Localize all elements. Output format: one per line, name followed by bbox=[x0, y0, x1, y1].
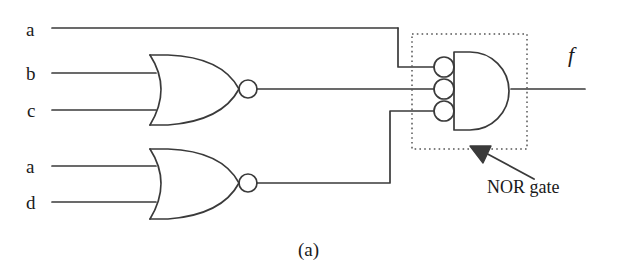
nor-gate-2 bbox=[150, 149, 257, 219]
nor-gate-1-bottom-arc bbox=[150, 89, 239, 125]
input-label-d: d bbox=[26, 193, 36, 212]
nor-gate-annotation-arrow bbox=[470, 146, 534, 179]
input-label-c: c bbox=[27, 101, 35, 120]
wire-nor2-to-output-gate bbox=[257, 111, 434, 183]
figure-logic-circuit: a b c a d f NOR gate (a) bbox=[0, 0, 638, 274]
nor-gate-2-top-arc bbox=[150, 149, 239, 183]
wire-a-to-output-gate bbox=[398, 28, 434, 67]
nor-gate-1-bubble bbox=[239, 80, 257, 98]
nor-gate-1-top-arc bbox=[150, 55, 239, 89]
nor-gate-2-bottom-arc bbox=[150, 183, 239, 219]
input-label-a-bottom: a bbox=[26, 157, 34, 176]
nor-gate-1-back bbox=[150, 55, 161, 125]
input-label-b: b bbox=[26, 64, 36, 83]
output-gate-and-body bbox=[454, 52, 509, 130]
nor-gate-1 bbox=[150, 55, 257, 125]
nor-gate-annotation-label: NOR gate bbox=[487, 178, 559, 196]
figure-caption: (a) bbox=[298, 240, 319, 259]
nor-gate-2-back bbox=[150, 149, 161, 219]
input-label-a-top: a bbox=[26, 20, 34, 39]
nor-gate-2-bubble bbox=[239, 174, 257, 192]
output-label-f: f bbox=[568, 44, 574, 66]
output-gate-bubble-2 bbox=[434, 79, 454, 99]
nor-gate-output bbox=[434, 52, 509, 130]
annotation-arrow-shaft bbox=[482, 151, 534, 179]
output-gate-bubble-3 bbox=[434, 101, 454, 121]
circuit-schematic bbox=[0, 0, 638, 274]
output-gate-bubble-1 bbox=[434, 57, 454, 77]
